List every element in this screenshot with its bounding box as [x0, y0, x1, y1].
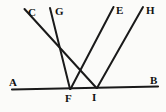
line-GF — [50, 8, 70, 89]
label-I: I — [92, 92, 96, 103]
label-E: E — [116, 5, 123, 16]
label-H: H — [146, 5, 155, 16]
label-C: C — [28, 7, 36, 18]
figure-canvas — [0, 0, 166, 112]
line-HI — [97, 7, 143, 88]
line-EF — [71, 7, 114, 89]
label-F: F — [65, 93, 72, 104]
ray-group — [25, 7, 144, 89]
label-G: G — [55, 6, 64, 17]
line-AB — [12, 87, 158, 90]
baseline-group — [12, 87, 158, 90]
geometry-figure: C G E H A B F I — [0, 0, 166, 112]
label-B: B — [150, 75, 157, 86]
label-A: A — [9, 77, 17, 88]
